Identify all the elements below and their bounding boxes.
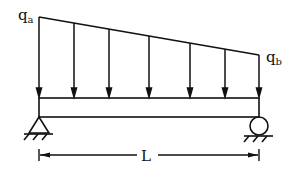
beam	[39, 98, 259, 117]
beam-diagram: qa qb L	[0, 0, 297, 172]
roller-support-right	[244, 117, 273, 142]
load-arrows	[37, 17, 262, 97]
label-span-L: L	[141, 147, 151, 165]
label-qa: qa	[18, 6, 34, 25]
label-qb: qb	[266, 48, 282, 67]
pin-support-left	[24, 117, 53, 140]
